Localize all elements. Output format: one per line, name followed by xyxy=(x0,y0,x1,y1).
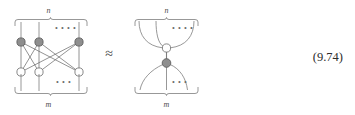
figure-container: • • • • xyxy=(0,0,355,115)
left-shaded-node-3 xyxy=(75,38,83,46)
right-diagram: • • • • • • • n m xyxy=(135,6,198,109)
right-shaded-node xyxy=(162,59,171,68)
left-top-dots: • • • • xyxy=(55,24,76,33)
left-shaded-node-2 xyxy=(35,38,43,46)
left-bottom-dots: • • • xyxy=(56,78,71,87)
right-open-node xyxy=(162,44,170,52)
right-bottom-dots: • • • xyxy=(172,78,187,87)
equation-number: (9.74) xyxy=(313,50,343,64)
left-diagram: • • • • xyxy=(15,6,87,109)
left-bottom-label: m xyxy=(46,100,52,109)
left-shaded-node-1 xyxy=(17,38,25,46)
right-lower-fan-leg-1 xyxy=(140,65,163,91)
left-bipartite-edges xyxy=(21,42,79,72)
right-upper-fan-leg-2 xyxy=(156,21,163,47)
right-top-label: n xyxy=(165,6,169,15)
tensor-network-figure: • • • • xyxy=(0,0,355,115)
right-upper-fan-leg-1 xyxy=(139,21,163,48)
right-top-dots: • • • • xyxy=(172,24,193,33)
right-bottom-label: m xyxy=(164,100,170,109)
left-top-label: n xyxy=(47,6,51,15)
approx-equals-symbol: ≈ xyxy=(105,46,113,61)
left-bottom-brace xyxy=(15,87,87,96)
